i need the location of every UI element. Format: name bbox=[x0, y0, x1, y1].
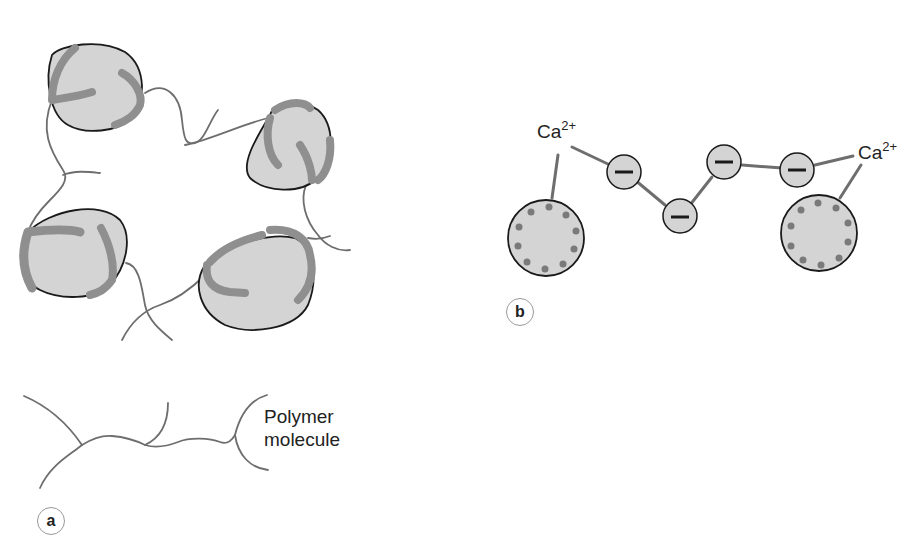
polymer-chain bbox=[126, 263, 172, 340]
anionic-group bbox=[780, 153, 814, 187]
polymer-chain bbox=[303, 185, 350, 250]
calcium-ion-left: Ca2+ bbox=[537, 118, 576, 143]
anionic-group bbox=[707, 145, 741, 179]
bond-line bbox=[690, 177, 712, 205]
particle-4 bbox=[199, 230, 314, 330]
panel-b-ion-bridging bbox=[508, 145, 861, 276]
panel-a-label: a bbox=[37, 507, 65, 535]
polymer-chain bbox=[28, 100, 65, 232]
polymer-chain bbox=[145, 88, 218, 143]
bond-line bbox=[815, 156, 853, 165]
bond-line bbox=[635, 180, 665, 205]
bond-line bbox=[840, 165, 861, 198]
ion-charge: 2+ bbox=[561, 118, 576, 133]
polymer-molecule-label: Polymer molecule bbox=[264, 405, 340, 451]
bond-line bbox=[552, 155, 558, 198]
particle-2 bbox=[247, 102, 331, 189]
anionic-group bbox=[663, 199, 697, 233]
polymer-label-line2: molecule bbox=[264, 428, 340, 451]
bond-line bbox=[572, 147, 610, 165]
particle-1 bbox=[49, 44, 143, 131]
charged-particle-left bbox=[508, 200, 584, 276]
diagram-canvas bbox=[0, 0, 924, 550]
panel-b-label: b bbox=[506, 298, 534, 326]
anionic-group bbox=[607, 155, 641, 189]
ion-symbol: Ca bbox=[537, 121, 561, 142]
bond-line bbox=[742, 165, 782, 168]
calcium-ion-right: Ca2+ bbox=[858, 139, 897, 164]
polymer-chain bbox=[63, 172, 100, 175]
ion-symbol: Ca bbox=[858, 142, 882, 163]
polymer-molecule bbox=[24, 395, 268, 488]
charged-particle-right bbox=[781, 195, 857, 271]
ion-charge: 2+ bbox=[882, 139, 897, 154]
particle-3 bbox=[21, 209, 127, 297]
polymer-chain bbox=[122, 275, 205, 340]
polymer-label-line1: Polymer bbox=[264, 405, 340, 428]
